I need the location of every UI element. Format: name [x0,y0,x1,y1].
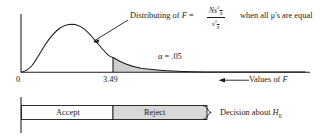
decision-caption: Decision about H0 [220,109,281,119]
distribution-caption-equals: = [187,11,194,20]
axis-tick-label-critical-value: 3.49 [103,76,118,84]
f-ratio-formula: Ns2X̄ s2X̄ [207,5,225,29]
decision-caption-text: Decision about [220,108,273,117]
reject-region-label: Reject [144,109,165,117]
when-clause: when all μ's are equal [240,12,313,20]
accept-region-label: Accept [56,109,80,117]
alpha-annotation: α = .05 [158,53,182,61]
numerator-exponent: 2 [217,5,220,10]
x-axis-title: Values of F [249,76,288,84]
f-distribution-curve [22,24,305,72]
figure-graphics [0,0,332,138]
x-axis-title-text: Values of [249,75,283,84]
values-of-f-arrowhead [219,78,226,82]
x-axis-title-symbol: F [283,75,288,84]
f-ratio-numerator: Ns2X̄ [207,5,225,17]
null-hypothesis-subscript: 0 [279,113,282,119]
f-distribution-figure: Distributing of F = Ns2X̄ s2X̄ when all … [0,0,332,138]
f-ratio-denominator: s2X̄ [207,19,225,30]
denominator-subscript: X̄ [217,24,220,29]
axis-tick-label-origin: 0 [16,76,20,84]
rejection-tail-shading [113,58,305,73]
distribution-caption: Distributing of F = [130,12,194,20]
caption-leader-line [94,20,128,41]
distribution-caption-text: Distributing of [130,11,182,20]
numerator-subscript: X̄ [220,11,223,16]
